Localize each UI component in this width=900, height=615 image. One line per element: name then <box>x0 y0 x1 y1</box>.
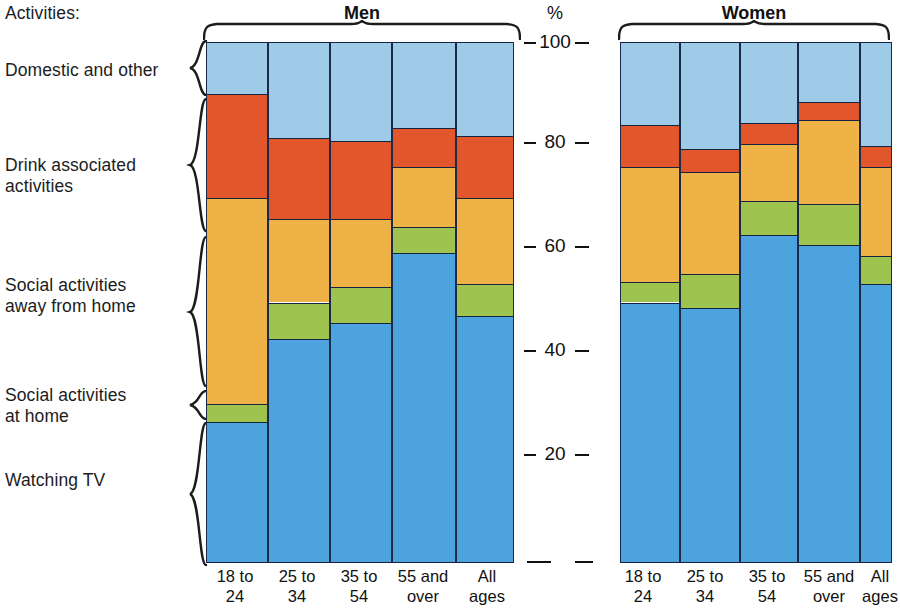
x-label-men-25-34: 25 to 34 <box>266 566 328 606</box>
tick-mark-left-60 <box>524 246 536 248</box>
x-label-men-55-over: 55 and over <box>390 566 456 606</box>
segment-watching-tv-women-18-24[interactable] <box>621 303 679 564</box>
segment-domestic-and-other-women-55-over[interactable] <box>799 42 859 102</box>
segment-social-at-home-men-18-24[interactable] <box>207 404 267 422</box>
segment-social-at-home-women-25-34[interactable] <box>681 274 739 308</box>
segment-watching-tv-men-25-34[interactable] <box>269 339 329 563</box>
segment-domestic-and-other-men-35-54[interactable] <box>331 42 391 141</box>
segment-watching-tv-women-all-ages[interactable] <box>861 284 891 563</box>
segment-domestic-and-other-women-35-54[interactable] <box>741 42 797 123</box>
segment-social-at-home-men-55-over[interactable] <box>393 227 455 253</box>
bar-women-35-54[interactable] <box>740 42 798 563</box>
segment-drink-associated-men-all-ages[interactable] <box>457 136 513 199</box>
segment-domestic-and-other-men-18-24[interactable] <box>207 42 267 94</box>
segment-drink-associated-women-18-24[interactable] <box>621 125 679 167</box>
x-label-men-35-54: 35 to 54 <box>328 566 390 606</box>
segment-watching-tv-men-55-over[interactable] <box>393 253 455 563</box>
segment-drink-associated-women-35-54[interactable] <box>741 123 797 144</box>
legend-label-drink-associated: Drink associated activities <box>5 155 136 197</box>
group-title-men: Men <box>282 3 442 24</box>
segment-drink-associated-women-all-ages[interactable] <box>861 146 891 167</box>
x-label-women-25-34: 25 to 34 <box>674 566 736 606</box>
bar-men-25-34[interactable] <box>268 42 330 563</box>
segment-drink-associated-men-35-54[interactable] <box>331 141 391 219</box>
x-label-men-18-24: 18 to 24 <box>204 566 266 606</box>
activities-heading: Activities: <box>5 3 80 24</box>
legend-label-watching-tv: Watching TV <box>5 470 105 491</box>
bar-women-25-34[interactable] <box>680 42 740 563</box>
segment-social-away-from-home-women-25-34[interactable] <box>681 172 739 274</box>
segment-watching-tv-women-55-over[interactable] <box>799 245 859 563</box>
x-label-women-35-54: 35 to 54 <box>736 566 798 606</box>
tick-mark-left-20 <box>524 454 536 456</box>
brace-watching-tv <box>186 422 208 567</box>
segment-drink-associated-women-55-over[interactable] <box>799 102 859 120</box>
tick-mark-right-60 <box>575 246 589 248</box>
segment-social-away-from-home-women-18-24[interactable] <box>621 167 679 282</box>
segment-social-away-from-home-women-35-54[interactable] <box>741 144 797 201</box>
segment-social-at-home-women-55-over[interactable] <box>799 204 859 246</box>
segment-watching-tv-men-all-ages[interactable] <box>457 316 513 563</box>
bar-women-18-24[interactable] <box>620 42 680 563</box>
bar-women-55-over[interactable] <box>798 42 860 563</box>
bar-men-18-24[interactable] <box>206 42 268 563</box>
x-label-women-18-24: 18 to 24 <box>612 566 674 606</box>
brace-social-at-home <box>186 390 208 420</box>
brace-social-away-from-home <box>186 236 208 388</box>
tick-mark-left-80 <box>524 142 536 144</box>
segment-social-at-home-women-all-ages[interactable] <box>861 256 891 285</box>
segment-social-away-from-home-women-all-ages[interactable] <box>861 167 891 256</box>
tick-mark-left-40 <box>524 350 536 352</box>
segment-social-away-from-home-women-55-over[interactable] <box>799 120 859 203</box>
segment-social-away-from-home-men-55-over[interactable] <box>393 167 455 227</box>
segment-social-at-home-men-25-34[interactable] <box>269 303 329 339</box>
x-label-men-all-ages: All ages <box>456 566 518 606</box>
tick-mark-left-100 <box>524 42 536 44</box>
segment-social-at-home-men-all-ages[interactable] <box>457 284 513 315</box>
segment-social-away-from-home-men-35-54[interactable] <box>331 219 391 287</box>
bar-men-all-ages[interactable] <box>456 42 514 563</box>
bar-women-all-ages[interactable] <box>860 42 892 563</box>
bar-men-55-over[interactable] <box>392 42 456 563</box>
segment-social-at-home-women-18-24[interactable] <box>621 282 679 303</box>
tick-mark-right-40 <box>575 350 589 352</box>
segment-watching-tv-men-18-24[interactable] <box>207 422 267 563</box>
x-label-women-55-over: 55 and over <box>796 566 862 606</box>
legend-label-social-at-home: Social activities at home <box>5 385 126 427</box>
tick-mark-right-100 <box>575 42 589 44</box>
bar-men-35-54[interactable] <box>330 42 392 563</box>
legend-label-domestic-and-other: Domestic and other <box>5 60 159 81</box>
segment-domestic-and-other-women-25-34[interactable] <box>681 42 739 149</box>
brace-drink-associated <box>186 98 208 233</box>
tick-mark-right-20 <box>575 454 589 456</box>
segment-social-away-from-home-men-all-ages[interactable] <box>457 198 513 284</box>
segment-drink-associated-men-55-over[interactable] <box>393 128 455 167</box>
legend-label-social-away-from-home: Social activities away from home <box>5 275 136 317</box>
segment-social-at-home-women-35-54[interactable] <box>741 201 797 235</box>
tick-mark-baseline-left <box>527 561 551 563</box>
segment-watching-tv-men-35-54[interactable] <box>331 323 391 563</box>
segment-domestic-and-other-men-all-ages[interactable] <box>457 42 513 136</box>
segment-watching-tv-women-25-34[interactable] <box>681 308 739 563</box>
segment-domestic-and-other-men-25-34[interactable] <box>269 42 329 138</box>
group-title-women: Women <box>674 3 834 24</box>
segment-social-away-from-home-men-25-34[interactable] <box>269 219 329 302</box>
segment-social-away-from-home-men-18-24[interactable] <box>207 198 267 404</box>
x-label-women-all-ages: All ages <box>860 566 900 606</box>
tick-mark-baseline-right <box>575 561 593 563</box>
segment-social-at-home-men-35-54[interactable] <box>331 287 391 323</box>
segment-drink-associated-men-25-34[interactable] <box>269 138 329 219</box>
segment-domestic-and-other-men-55-over[interactable] <box>393 42 455 128</box>
segment-drink-associated-men-18-24[interactable] <box>207 94 267 198</box>
segment-watching-tv-women-35-54[interactable] <box>741 235 797 563</box>
percent-axis-label: % <box>515 3 595 24</box>
segment-domestic-and-other-women-18-24[interactable] <box>621 42 679 125</box>
segment-domestic-and-other-women-all-ages[interactable] <box>861 42 891 146</box>
segment-drink-associated-women-25-34[interactable] <box>681 149 739 172</box>
brace-domestic-and-other <box>186 40 208 96</box>
tick-mark-right-80 <box>575 142 589 144</box>
